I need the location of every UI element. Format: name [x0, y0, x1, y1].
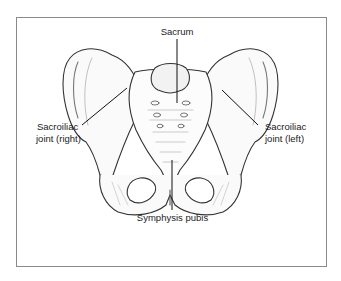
label-symphysis-pubis: Symphysis pubis — [130, 212, 215, 223]
label-sacroiliac-left-line2: joint (left) — [265, 133, 304, 144]
label-sacroiliac-left-line1: Sacroiliac — [265, 121, 306, 132]
label-sacrum: Sacrum — [155, 26, 199, 37]
label-sacroiliac-right-line1: Sacroiliac — [37, 121, 78, 132]
label-sacroiliac-right-line2: joint (right) — [36, 133, 81, 144]
